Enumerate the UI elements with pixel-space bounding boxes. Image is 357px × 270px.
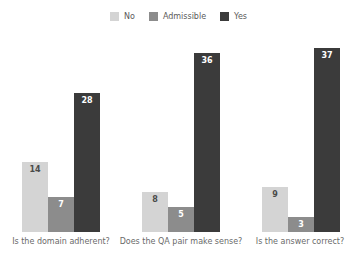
legend-label-yes: Yes <box>234 12 247 21</box>
legend-item-no[interactable]: No <box>110 12 135 21</box>
bar-value-label: 28 <box>74 96 100 105</box>
bar-qa-pair-make-sense-admissible[interactable]: 5 <box>168 207 194 232</box>
bar-chart: No Admissible Yes 14 7 28 8 <box>0 0 357 270</box>
bar-value-label: 9 <box>262 190 288 199</box>
bar-value-label: 36 <box>194 56 220 65</box>
bar-domain-adherent-no[interactable]: 14 <box>22 162 48 232</box>
bar-value-label: 7 <box>48 200 74 209</box>
bar-group-answer-correct: 9 3 37 <box>262 48 340 232</box>
bar-domain-adherent-admissible[interactable]: 7 <box>48 197 74 232</box>
x-axis-labels: Is the domain adherent? Does the QA pair… <box>0 236 357 258</box>
legend-label-admissible: Admissible <box>163 12 206 21</box>
bar-answer-correct-no[interactable]: 9 <box>262 187 288 232</box>
legend-swatch-yes-icon <box>220 12 229 21</box>
x-axis-label-domain-adherent: Is the domain adherent? <box>1 236 121 247</box>
legend-swatch-admissible-icon <box>149 12 158 21</box>
legend-label-no: No <box>124 12 135 21</box>
legend-item-yes[interactable]: Yes <box>220 12 247 21</box>
bar-value-label: 8 <box>142 195 168 204</box>
legend-swatch-no-icon <box>110 12 119 21</box>
bar-value-label: 3 <box>288 220 314 229</box>
bar-answer-correct-admissible[interactable]: 3 <box>288 217 314 232</box>
plot-area: 14 7 28 8 5 36 9 <box>0 48 357 232</box>
bar-group-domain-adherent: 14 7 28 <box>22 48 100 232</box>
x-axis-label-answer-correct: Is the answer correct? <box>243 236 357 247</box>
bar-value-label: 37 <box>314 51 340 60</box>
bar-value-label: 5 <box>168 210 194 219</box>
bar-answer-correct-yes[interactable]: 37 <box>314 48 340 232</box>
legend-item-admissible[interactable]: Admissible <box>149 12 206 21</box>
bar-qa-pair-make-sense-no[interactable]: 8 <box>142 192 168 232</box>
bar-value-label: 14 <box>22 165 48 174</box>
bar-group-qa-pair-make-sense: 8 5 36 <box>142 48 220 232</box>
chart-legend: No Admissible Yes <box>0 12 357 21</box>
x-axis-label-qa-pair-make-sense: Does the QA pair make sense? <box>118 236 244 247</box>
bar-domain-adherent-yes[interactable]: 28 <box>74 93 100 232</box>
bar-qa-pair-make-sense-yes[interactable]: 36 <box>194 53 220 232</box>
